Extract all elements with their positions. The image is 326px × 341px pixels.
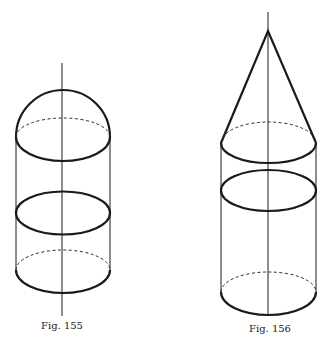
fig155-bottom-front xyxy=(16,270,110,293)
fig155-rim-front xyxy=(16,137,110,161)
fig155-caption: Fig. 155 xyxy=(41,320,83,331)
figure-156 xyxy=(221,12,316,315)
fig155-rim-back xyxy=(16,118,110,137)
figure-155 xyxy=(16,63,110,316)
fig155-bottom-back xyxy=(16,250,110,270)
fig155-middle-ellipse xyxy=(16,192,110,235)
diagram-canvas xyxy=(0,0,326,341)
fig155-hemisphere xyxy=(16,90,110,137)
fig156-caption: Fig. 156 xyxy=(249,323,291,334)
